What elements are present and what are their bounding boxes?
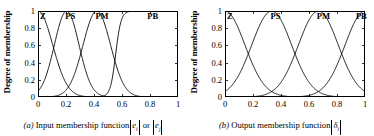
mf-label-z: Z — [40, 12, 46, 20]
mf-label-pb: PB — [356, 12, 367, 20]
y-tick-label: 0.2 — [200, 76, 222, 84]
abs-symbol: ei — [130, 120, 139, 135]
membership-curve-pm — [38, 11, 178, 97]
abs-symbol: δi — [331, 120, 341, 135]
x-tick-label: 0.2 — [56, 100, 76, 108]
y-tick-label: 1 — [200, 7, 222, 15]
x-tick-label: 0.6 — [112, 100, 132, 108]
y-tick-label: 0.4 — [200, 59, 222, 67]
x-tick-label: 0.8 — [327, 100, 347, 108]
membership-curve-pm — [225, 11, 365, 97]
plot-area-b — [225, 11, 365, 97]
caption-b-symbols: δi — [330, 120, 342, 130]
y-tick-label: 0.6 — [200, 41, 222, 49]
caption-a-prefix: (a) — [24, 120, 34, 130]
figure-membership-functions: Degree of membership (a) Input membershi… — [0, 0, 374, 136]
y-axis-label-b: Degree of membership — [189, 6, 201, 98]
caption-a-symbols: ei or ej — [129, 120, 163, 130]
panel-output-membership: Degree of membership (b) Output membersh… — [187, 0, 374, 136]
chart-svg — [38, 11, 178, 97]
x-tick-label: 1 — [355, 100, 374, 108]
x-tick-label: 0 — [215, 100, 235, 108]
membership-curve-z — [38, 11, 178, 97]
mf-label-z: Z — [227, 12, 233, 20]
mf-label-pb: PB — [147, 12, 158, 20]
abs-symbol: ej — [153, 120, 162, 135]
caption-a-text: Input membership function — [36, 120, 130, 130]
caption-separator: or — [141, 120, 152, 131]
x-tick-label: 0.4 — [271, 100, 291, 108]
x-tick-label: 0.2 — [243, 100, 263, 108]
membership-curve-pb — [38, 11, 178, 97]
plot-area-a — [38, 11, 178, 97]
mf-label-ps: PS — [65, 12, 75, 20]
y-tick-label: 0.4 — [13, 59, 35, 67]
mf-label-pm: PM — [317, 12, 330, 20]
symbol-subscript: j — [159, 126, 161, 132]
y-tick-label: 0.8 — [13, 24, 35, 32]
panel-input-membership: Degree of membership (a) Input membershi… — [0, 0, 187, 136]
mf-label-ps: PS — [271, 12, 281, 20]
membership-curve-ps — [38, 11, 178, 97]
caption-b-text: Output membership function — [231, 120, 330, 130]
x-tick-label: 0.4 — [84, 100, 104, 108]
y-tick-label: 1 — [13, 7, 35, 15]
y-tick-label: 0.6 — [13, 41, 35, 49]
symbol-subscript: i — [136, 126, 138, 132]
x-tick-label: 0.6 — [299, 100, 319, 108]
y-tick-label: 0.2 — [13, 76, 35, 84]
chart-svg — [225, 11, 365, 97]
caption-a: (a) Input membership functionei or ej — [0, 120, 187, 135]
x-tick-label: 0.8 — [140, 100, 160, 108]
x-tick-label: 0 — [28, 100, 48, 108]
caption-b-prefix: (b) — [219, 120, 229, 130]
caption-b: (b) Output membership functionδi — [187, 120, 374, 135]
x-tick-label: 1 — [168, 100, 188, 108]
y-axis-label-a: Degree of membership — [2, 6, 14, 98]
mf-label-pm: PM — [95, 12, 108, 20]
symbol-subscript: i — [337, 126, 339, 132]
y-tick-label: 0.8 — [200, 24, 222, 32]
